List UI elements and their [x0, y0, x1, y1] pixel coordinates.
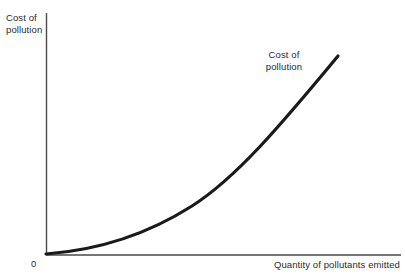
curve-annotation-line1: Cost of [269, 49, 300, 60]
curve-annotation-label: Cost of pollution [246, 49, 322, 73]
origin-label: 0 [31, 258, 36, 270]
cost-of-pollution-curve [46, 56, 338, 254]
chart-plot-area [0, 0, 405, 276]
x-axis-label: Quantity of pollutants emitted [274, 259, 400, 271]
economics-cost-of-pollution-chart: Cost of pollution 0 Quantity of pollutan… [0, 0, 405, 276]
curve-annotation-line2: pollution [246, 61, 322, 73]
y-axis-label-line2: pollution [6, 24, 42, 36]
y-axis-label: Cost of pollution [6, 12, 42, 35]
y-axis-label-line1: Cost of [6, 12, 37, 23]
